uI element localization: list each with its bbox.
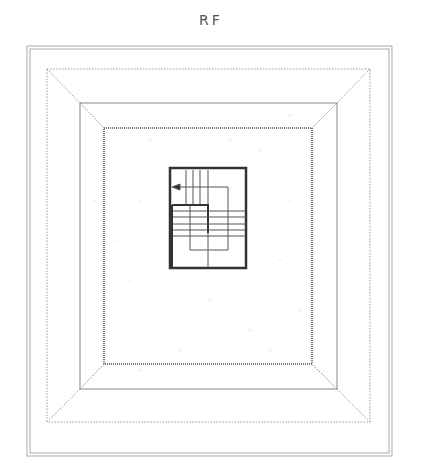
roof-plan-drawing [0,0,422,474]
stair-well [170,168,246,268]
direction-arrow-icon [172,184,180,190]
